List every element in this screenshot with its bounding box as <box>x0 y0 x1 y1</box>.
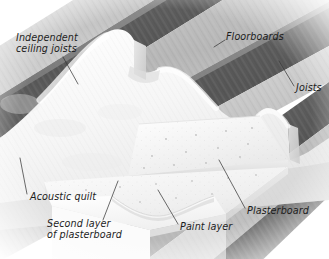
label-line-1: Independent <box>16 32 78 43</box>
illustration-canvas: Independentceiling joists Floorboards Jo… <box>0 0 329 259</box>
label-independent-ceiling-joists: Independentceiling joists <box>16 32 78 55</box>
label-joists: Joists <box>296 82 322 93</box>
label-paint-layer: Paint layer <box>180 221 232 232</box>
label-line-1: Second layer <box>47 218 111 229</box>
label-line-2: ceiling joists <box>16 43 77 54</box>
label-second-layer-of-plasterboard: Second layerof plasterboard <box>47 218 122 241</box>
label-plasterboard: Plasterboard <box>247 205 309 216</box>
label-line-2: of plasterboard <box>47 229 122 240</box>
label-floorboards: Floorboards <box>226 31 284 42</box>
label-acoustic-quilt: Acoustic quilt <box>30 191 96 202</box>
